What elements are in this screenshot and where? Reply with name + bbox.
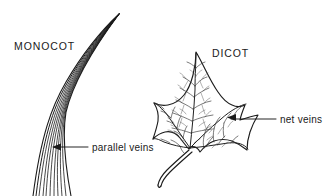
leaf-petiole-tip — [158, 185, 161, 187]
leaf-venation-figure: MONOCOT parallel veins — [0, 0, 330, 196]
monocot-label: MONOCOT — [14, 40, 75, 52]
leaf-petiole — [158, 150, 189, 185]
leaf-petiole-edge — [161, 152, 192, 186]
parallel-veins-label: parallel veins — [92, 142, 154, 153]
dicot-label: DICOT — [212, 47, 249, 59]
leaf-primary-veins — [153, 53, 248, 149]
dicot-ivy-leaf — [153, 52, 258, 187]
net-veins-arrowhead — [227, 114, 236, 121]
figure-canvas: MONOCOT parallel veins — [0, 0, 330, 196]
leaf-outline — [153, 52, 258, 152]
parallel-veins-annotation: parallel veins — [52, 142, 154, 153]
leaf-tertiary-veinlets — [161, 70, 233, 148]
net-veins-label: net veins — [280, 114, 322, 125]
